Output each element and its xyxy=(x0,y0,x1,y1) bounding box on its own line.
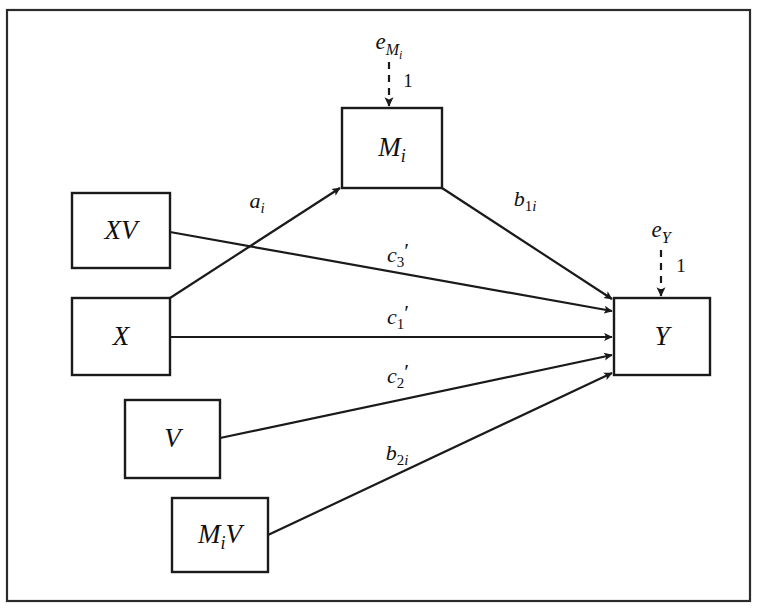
error-term-mi-coefficient: 1 xyxy=(403,70,413,91)
path-diagram-figure: aib1ic3′c1′c2′b2ieMi1eY1MiXVXVMiVY xyxy=(0,0,757,614)
path-xv-to-y-label: c3′ xyxy=(387,238,409,270)
path-v-to-y xyxy=(220,355,612,438)
path-miv-to-y-label: b2i xyxy=(386,440,409,468)
path-edges-group xyxy=(170,188,612,535)
path-x-to-y-label: c1′ xyxy=(387,300,409,332)
path-mi-to-y-label: b1i xyxy=(514,186,537,214)
path-v-to-y-label: c2′ xyxy=(387,359,409,391)
error-term-mi-label: eMi xyxy=(376,29,403,61)
error-term-y-label: eY xyxy=(651,217,672,245)
node-xv-label: XV xyxy=(104,215,141,245)
path-x-to-mi-label: ai xyxy=(249,188,264,216)
node-boxes-group xyxy=(72,108,710,572)
node-x-label: X xyxy=(112,321,131,351)
path-miv-to-y xyxy=(268,373,612,535)
diagram-canvas: aib1ic3′c1′c2′b2ieMi1eY1MiXVXVMiVY xyxy=(0,0,757,614)
error-term-y-coefficient: 1 xyxy=(676,255,686,276)
